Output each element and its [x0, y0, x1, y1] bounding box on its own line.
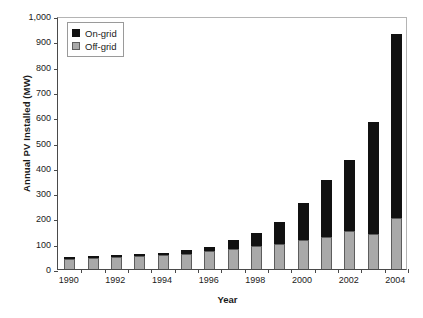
legend-item-on-grid: On-grid: [72, 27, 117, 39]
bar-segment-off-grid: [251, 246, 262, 269]
y-axis-tick-label: 900: [11, 37, 51, 47]
bar-group: [158, 254, 169, 269]
y-axis-tick-label: 1,000: [11, 12, 51, 22]
x-axis-tick-mark: [221, 269, 222, 273]
bar-segment-off-grid: [64, 259, 75, 269]
y-axis-tick-mark: [54, 69, 58, 70]
legend-label-on-grid: On-grid: [85, 28, 117, 39]
x-axis-tick-label: 1998: [233, 275, 277, 285]
legend-swatch-on-grid-icon: [72, 29, 80, 37]
x-axis-tick-label: 1994: [140, 275, 184, 285]
bar-segment-off-grid: [321, 237, 332, 269]
y-axis-tick-mark: [54, 18, 58, 19]
bar-group: [204, 246, 215, 269]
y-axis-tick-label: 200: [11, 214, 51, 224]
y-axis-tick-mark: [54, 94, 58, 95]
x-axis-tick-mark: [105, 269, 106, 273]
x-axis-tick-mark: [361, 269, 362, 273]
x-axis-tick-mark: [245, 269, 246, 273]
x-axis-tick-label: 2004: [373, 275, 417, 285]
y-axis-tick-label: 600: [11, 113, 51, 123]
x-axis-tick-label: 1990: [47, 275, 91, 285]
x-axis-tick-label: 2002: [327, 275, 371, 285]
bar-segment-off-grid: [111, 257, 122, 269]
bar-group: [344, 160, 355, 269]
bar-segment-off-grid: [344, 231, 355, 269]
x-axis-tick-mark: [151, 269, 152, 273]
x-axis-tick-mark: [291, 269, 292, 273]
x-axis-tick-label: 2000: [280, 275, 324, 285]
bar-segment-on-grid: [111, 255, 122, 257]
bar-segment-off-grid: [391, 218, 402, 269]
x-axis-tick-mark: [198, 269, 199, 273]
bar-segment-off-grid: [274, 244, 285, 269]
bar-segment-off-grid: [158, 255, 169, 269]
bar-segment-on-grid: [158, 253, 169, 255]
bar-segment-on-grid: [321, 180, 332, 237]
bar-group: [111, 256, 122, 269]
y-axis-tick-mark: [54, 271, 58, 272]
y-axis-tick-label: 700: [11, 88, 51, 98]
y-axis-tick-mark: [54, 119, 58, 120]
bar-segment-on-grid: [134, 254, 145, 256]
chart-figure: Annual PV Installed (MW) Year On-grid Of…: [0, 0, 423, 318]
bar-group: [88, 257, 99, 269]
legend-item-off-grid: Off-grid: [72, 40, 117, 52]
bar-group: [274, 222, 285, 269]
bar-segment-off-grid: [298, 240, 309, 269]
bar-segment-on-grid: [344, 160, 355, 231]
bar-segment-on-grid: [228, 240, 239, 249]
x-axis-tick-label: 1996: [187, 275, 231, 285]
bar-group: [134, 254, 145, 269]
y-axis-tick-mark: [54, 246, 58, 247]
bar-segment-off-grid: [368, 234, 379, 269]
bar-segment-on-grid: [64, 257, 75, 259]
bar-segment-off-grid: [181, 254, 192, 269]
x-axis-tick-mark: [338, 269, 339, 273]
x-axis-tick-mark: [408, 269, 409, 273]
bar-segment-off-grid: [134, 256, 145, 269]
y-axis-tick-mark: [54, 145, 58, 146]
y-axis-tick-mark: [54, 195, 58, 196]
y-axis-tick-label: 400: [11, 164, 51, 174]
bar-group: [368, 122, 379, 269]
x-axis-tick-mark: [385, 269, 386, 273]
x-axis-tick-mark: [128, 269, 129, 273]
x-axis-tick-mark: [81, 269, 82, 273]
bar-segment-on-grid: [181, 250, 192, 254]
bar-segment-on-grid: [251, 233, 262, 246]
x-axis-tick-label: 1992: [93, 275, 137, 285]
x-axis-title: Year: [55, 294, 400, 305]
chart-legend: On-grid Off-grid: [67, 22, 124, 57]
bar-segment-off-grid: [204, 251, 215, 269]
bar-group: [228, 240, 239, 269]
bar-segment-off-grid: [228, 249, 239, 269]
bar-segment-on-grid: [368, 122, 379, 234]
y-axis-tick-mark: [54, 170, 58, 171]
y-axis-tick-label: 0: [11, 265, 51, 275]
x-axis-tick-mark: [175, 269, 176, 273]
bar-group: [391, 34, 402, 269]
bar-segment-off-grid: [88, 258, 99, 269]
legend-label-off-grid: Off-grid: [85, 41, 117, 52]
y-axis-tick-mark: [54, 43, 58, 44]
bar-segment-on-grid: [204, 247, 215, 251]
legend-swatch-off-grid-icon: [72, 42, 80, 50]
bar-segment-on-grid: [298, 203, 309, 240]
x-axis-tick-mark: [268, 269, 269, 273]
y-axis-tick-label: 500: [11, 139, 51, 149]
y-axis-tick-label: 100: [11, 240, 51, 250]
bar-segment-on-grid: [274, 222, 285, 244]
bar-group: [64, 258, 75, 269]
bar-group: [298, 203, 309, 269]
bar-group: [251, 233, 262, 269]
y-axis-tick-mark: [54, 220, 58, 221]
bar-segment-on-grid: [391, 34, 402, 218]
bar-group: [181, 250, 192, 269]
bar-segment-on-grid: [88, 256, 99, 258]
y-axis-tick-label: 800: [11, 63, 51, 73]
x-axis-tick-mark: [315, 269, 316, 273]
y-axis-tick-label: 300: [11, 189, 51, 199]
bar-group: [321, 180, 332, 269]
